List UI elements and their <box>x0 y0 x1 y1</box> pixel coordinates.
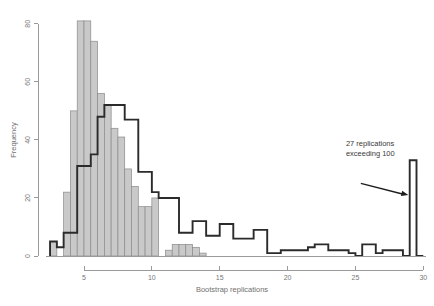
x-axis-tick-label: 15 <box>216 274 224 281</box>
annotation-arrow-head <box>401 191 408 196</box>
x-axis: 51015202530 <box>46 256 427 281</box>
x-axis-title: Bootstrap replications <box>196 285 268 294</box>
histogram-bar <box>145 207 152 256</box>
annotation-arrow <box>361 183 404 194</box>
histogram-bar <box>125 169 132 256</box>
x-axis-tick-label: 5 <box>82 274 86 281</box>
annotation-line-2: exceeding 100 <box>346 149 395 158</box>
annotation-line-1: 27 replications <box>346 139 395 148</box>
y-axis-tick-label: 80 <box>24 20 31 28</box>
x-axis-tick-label: 30 <box>419 274 427 281</box>
histogram-bar <box>70 111 77 256</box>
annotation-layer: 27 replications exceeding 100 <box>346 139 408 196</box>
y-axis-tick-label: 40 <box>24 136 31 144</box>
histogram-bar <box>193 247 200 256</box>
histogram-bar <box>77 21 84 256</box>
x-axis-tick-label: 20 <box>284 274 292 281</box>
histogram-bar <box>64 192 71 256</box>
histogram-bar <box>179 244 186 256</box>
histogram-bar <box>165 250 172 256</box>
y-axis-tick-label: 60 <box>24 78 31 86</box>
y-axis-tick-label: 0 <box>24 254 31 258</box>
histogram-bar <box>91 41 98 256</box>
histogram-bar <box>132 186 139 256</box>
x-axis-tick-label: 10 <box>148 274 156 281</box>
histogram-bar <box>84 21 91 256</box>
histogram-bar <box>118 137 125 256</box>
y-axis-tick-label: 20 <box>24 194 31 202</box>
y-axis: 020406080 <box>24 20 38 258</box>
y-axis-title: Frequency <box>9 122 18 158</box>
histogram-bar <box>50 241 57 256</box>
histogram-bar <box>111 128 118 256</box>
histogram-bar <box>152 198 159 256</box>
histogram-bar <box>98 93 105 256</box>
chart-canvas: 020406080 51015202530 Frequency Bootstra… <box>0 0 434 306</box>
histogram-bar <box>186 244 193 256</box>
histogram-bar <box>172 244 179 256</box>
observed-histogram-bars <box>50 21 206 256</box>
histogram-bar <box>138 207 145 256</box>
histogram-chart: 020406080 51015202530 Frequency Bootstra… <box>0 0 434 306</box>
histogram-bar <box>104 105 111 256</box>
x-axis-tick-label: 25 <box>352 274 360 281</box>
